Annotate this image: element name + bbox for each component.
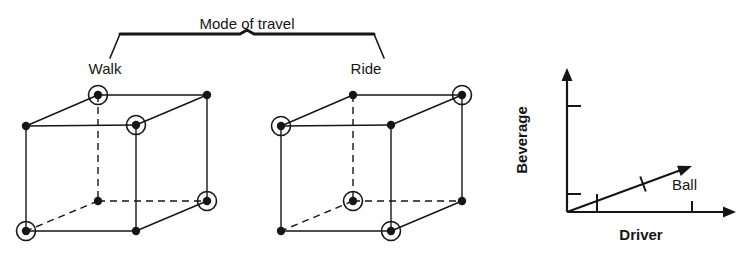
cube-edge [391, 201, 462, 231]
y-axis-arrowhead [562, 68, 573, 81]
figure-canvas: Mode of travel Walk Ride Driver Beverage… [0, 0, 750, 256]
y-axis-label: Beverage [513, 106, 530, 174]
ball-trend-line [567, 170, 682, 212]
figure-root: Mode of travel Walk Ride Driver Beverage… [0, 0, 750, 256]
cube-vertex-dot [277, 227, 285, 235]
cube-vertex-dot [94, 197, 102, 205]
cube-vertex-dot [277, 122, 285, 130]
cube-vertex-dot [349, 197, 357, 205]
cube-vertex-dot [132, 227, 140, 235]
x-axis-arrowhead [723, 207, 736, 218]
cube-vertex-dot [387, 121, 395, 129]
x-axis-label: Driver [619, 226, 663, 243]
cube-edge [281, 95, 353, 126]
cube-vertex-dot [458, 91, 466, 99]
cube-diagram-layer [17, 86, 472, 241]
interaction-plot [562, 68, 737, 218]
cube-edge-hidden [26, 201, 98, 231]
cube-edge [136, 201, 207, 231]
cube-vertex-dot [22, 122, 30, 130]
cube-edge [281, 125, 391, 126]
cube-vertex-dot [203, 91, 211, 99]
cube-vertex-dot [387, 227, 395, 235]
cube-vertex-dot [458, 197, 466, 205]
ball-series-annotation: Ball [672, 176, 697, 193]
cube-edge-hidden [281, 201, 353, 231]
cube-edge [136, 95, 207, 125]
cube-vertex-dot [22, 227, 30, 235]
cube-edge [26, 95, 98, 126]
group-label-ride: Ride [351, 60, 382, 77]
cube-walk [17, 86, 217, 241]
cube-vertex-dot [132, 121, 140, 129]
ball-trend-tick-marks [597, 176, 646, 212]
cube-edge [391, 95, 462, 125]
cube-ride [272, 86, 472, 241]
ball-trend-arrowhead [677, 166, 692, 176]
factor-brace [110, 30, 384, 58]
group-label-walk: Walk [89, 60, 122, 77]
axis-tick-marks [567, 106, 692, 212]
cube-vertex-dot [203, 197, 211, 205]
cube-vertex-dot [94, 91, 102, 99]
cube-edge [26, 125, 136, 126]
cube-vertex-dot [349, 91, 357, 99]
